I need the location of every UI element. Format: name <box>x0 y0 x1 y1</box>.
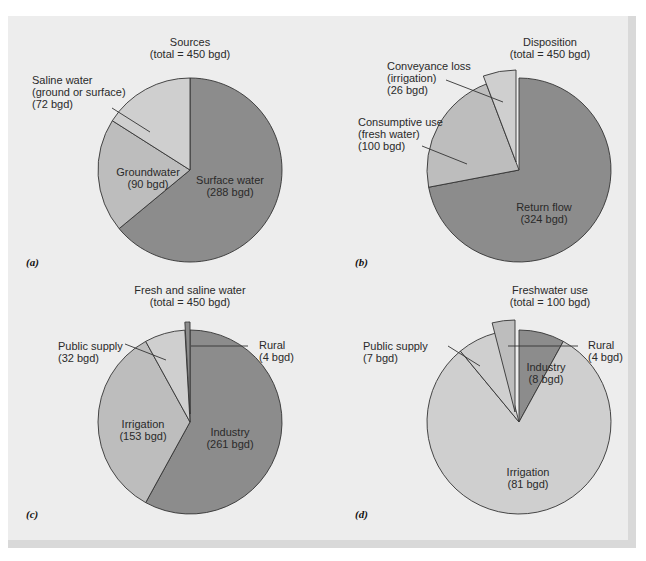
slice-label: (26 bgd) <box>387 84 428 96</box>
slice-label: (72 bgd) <box>32 98 73 110</box>
slice-label: Conveyance loss <box>387 60 471 72</box>
panel-label: (a) <box>26 256 39 269</box>
panel-label: (d) <box>355 508 368 521</box>
slice-label: (288 bgd) <box>206 186 253 198</box>
chart-title: (total = 450 bgd) <box>510 48 590 60</box>
chart-title: Fresh and saline water <box>134 284 246 296</box>
slice-label: Return flow <box>516 201 572 213</box>
pie-charts-figure: Sources(total = 450 bgd)(a)Surface water… <box>8 16 628 540</box>
slice-label: (32 bgd) <box>58 352 99 364</box>
chart-title: Freshwater use <box>512 284 588 296</box>
slice-label: Industry <box>526 361 566 373</box>
figure-frame: Sources(total = 450 bgd)(a)Surface water… <box>8 16 636 548</box>
slice-label: (8 bgd) <box>529 373 564 385</box>
slice-label: Surface water <box>196 174 264 186</box>
slice-label: Public supply <box>58 340 123 352</box>
slice-label: (324 bgd) <box>520 213 567 225</box>
slice-label: (100 bgd) <box>358 140 405 152</box>
slice-label: (81 bgd) <box>508 478 549 490</box>
slice-label: Groundwater <box>116 166 180 178</box>
figure-panel: Sources(total = 450 bgd)(a)Surface water… <box>8 16 628 540</box>
slice-label: (4 bgd) <box>588 351 623 363</box>
slice-label: Irrigation <box>122 418 165 430</box>
slice-label: (4 bgd) <box>259 351 294 363</box>
slice-label: Rural <box>588 339 614 351</box>
panel-label: (b) <box>355 256 368 269</box>
chart-title: Sources <box>170 36 211 48</box>
slice-label: Irrigation <box>507 466 550 478</box>
slice-label: Public supply <box>363 340 428 352</box>
panel-label: (c) <box>26 508 38 521</box>
chart-title: Disposition <box>523 36 577 48</box>
chart-title: (total = 100 bgd) <box>510 296 590 308</box>
slice-label: (7 bgd) <box>363 352 398 364</box>
slice-label: (fresh water) <box>358 128 420 140</box>
chart-title: (total = 450 bgd) <box>150 48 230 60</box>
chart-title: (total = 450 bgd) <box>150 296 230 308</box>
slice-label: (90 bgd) <box>128 178 169 190</box>
slice-label: (irrigation) <box>387 72 437 84</box>
slice-label: Consumptive use <box>358 116 443 128</box>
slice-label: (261 bgd) <box>206 438 253 450</box>
slice-label: (ground or surface) <box>32 86 126 98</box>
slice-label: Rural <box>259 339 285 351</box>
slice-label: (153 bgd) <box>119 430 166 442</box>
slice-label: Saline water <box>32 74 93 86</box>
slice-label: Industry <box>210 426 250 438</box>
